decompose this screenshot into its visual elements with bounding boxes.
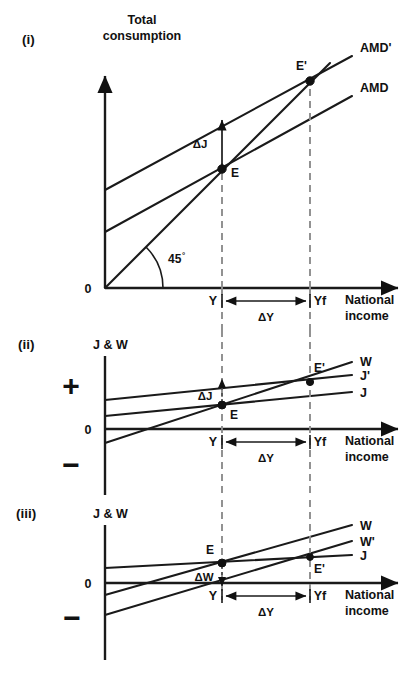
panel-i: (i) Total consumption 0 45 ° AMD' AMD ΔJ…	[22, 13, 398, 330]
panel-ii-xtick-yf: Yf	[314, 435, 327, 449]
panel-ii-curve-label-w: W	[360, 355, 372, 369]
panel-i-curve-amd-prime	[105, 56, 352, 190]
panel-ii-xtick-y: Y	[209, 435, 218, 449]
panel-iii: (iii) J & W 0 − W W' J ΔW E E' Y Yf	[16, 500, 398, 660]
panel-iii-curve-label-w: W	[360, 519, 372, 533]
panel-i-y-axis-label-line1: Total	[128, 13, 157, 27]
panel-i-angle-arc	[146, 247, 163, 288]
panel-iii-curve-label-j: J	[360, 549, 367, 563]
panel-iii-curve-w	[105, 525, 352, 595]
panel-i-delta-j-label: ΔJ	[193, 138, 208, 150]
panel-i-point-label-e-prime: E'	[296, 59, 307, 73]
panel-i-delta-y-label: ΔY	[258, 311, 274, 323]
panel-i-curve-label-amd: AMD	[360, 81, 388, 95]
panel-iii-x-axis-label-line1: National	[345, 588, 394, 602]
panel-i-x-axis-label-line1: National	[345, 293, 394, 307]
panel-i-origin-label: 0	[85, 282, 92, 296]
panel-ii-negative-sign: −	[62, 448, 80, 481]
panel-ii-positive-sign: +	[62, 369, 80, 402]
panel-iii-curve-w-prime	[105, 541, 352, 615]
panel-ii-x-axis-label-line2: income	[345, 450, 389, 464]
panel-iii-delta-y-label: ΔY	[258, 606, 274, 618]
panel-iii-y-axis-label: J & W	[93, 507, 128, 521]
panel-i-45-degree-line	[105, 63, 330, 288]
panel-ii-point-e	[218, 401, 226, 409]
panel-iii-xtick-y: Y	[209, 589, 218, 603]
panel-i-point-e	[218, 165, 226, 173]
panel-i-xtick-yf: Yf	[314, 294, 327, 308]
panel-iii-x-axis-label-line2: income	[345, 604, 389, 618]
panel-i-curve-amd	[105, 96, 352, 232]
panel-ii-y-axis-label: J & W	[93, 338, 128, 352]
economics-figure: (i) Total consumption 0 45 ° AMD' AMD ΔJ…	[0, 0, 416, 688]
panel-i-label: (i)	[22, 32, 35, 47]
panel-ii-delta-y-label: ΔY	[258, 452, 274, 464]
panel-ii-x-axis-label-line1: National	[345, 434, 394, 448]
panel-iii-label: (iii)	[16, 506, 36, 521]
panel-ii-point-label-e-prime: E'	[314, 361, 325, 375]
panel-iii-point-label-e-prime: E'	[314, 562, 325, 576]
panel-i-point-e-prime	[306, 77, 314, 85]
panel-ii-curve-label-j-prime: J'	[360, 369, 370, 383]
panel-i-point-label-e: E	[231, 166, 239, 180]
panel-i-angle-degree-symbol: °	[182, 251, 185, 260]
panel-iii-point-e-prime	[307, 554, 314, 561]
panel-ii: (ii) J & W 0 + − W J' J ΔJ E E' Y Yf	[18, 330, 398, 498]
panel-ii-label: (ii)	[18, 337, 35, 352]
panel-iii-point-label-e: E	[206, 543, 214, 557]
panel-i-xtick-y: Y	[209, 294, 218, 308]
panel-i-x-axis-label-line2: income	[345, 309, 389, 323]
panel-ii-curve-label-j: J	[360, 386, 367, 400]
panel-iii-delta-w-label: ΔW	[194, 571, 213, 583]
panel-i-angle-label: 45	[168, 252, 182, 266]
panel-iii-point-e	[218, 559, 226, 567]
panel-ii-point-e-prime	[306, 378, 313, 385]
panel-ii-delta-j-label: ΔJ	[198, 390, 213, 402]
three-panel-national-income-diagram: (i) Total consumption 0 45 ° AMD' AMD ΔJ…	[0, 0, 416, 688]
panel-ii-origin-label: 0	[85, 423, 92, 437]
panel-ii-point-label-e: E	[230, 408, 238, 422]
panel-i-y-axis-label-line2: consumption	[103, 29, 181, 43]
panel-i-curve-label-amd-prime: AMD'	[360, 41, 391, 55]
panel-iii-origin-label: 0	[85, 577, 92, 591]
panel-iii-curve-label-w-prime: W'	[360, 535, 375, 549]
panel-iii-xtick-yf: Yf	[314, 589, 327, 603]
panel-iii-negative-sign: −	[63, 601, 81, 634]
